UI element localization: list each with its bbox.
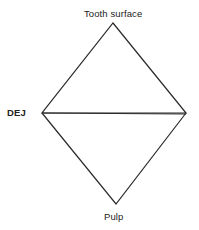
rhombus-figure bbox=[0, 0, 199, 230]
tooth-surface-label: Tooth surface bbox=[84, 9, 142, 19]
tooth-diagram: Tooth surface DEJ Pulp bbox=[0, 0, 199, 230]
lower-triangle bbox=[42, 113, 186, 204]
dej-label: DEJ bbox=[7, 108, 26, 118]
pulp-label: Pulp bbox=[104, 212, 123, 222]
upper-triangle bbox=[42, 23, 186, 113]
